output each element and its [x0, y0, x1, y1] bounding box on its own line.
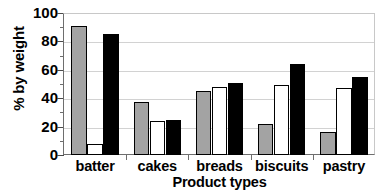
x-axis-tick-label: batter [64, 158, 126, 174]
bar [150, 121, 166, 155]
bar-group [134, 13, 182, 155]
bar [87, 144, 103, 155]
bar [290, 64, 306, 155]
x-axis-tick-label: pastry [313, 158, 375, 174]
y-axis-tick-label: 20 [18, 120, 58, 134]
bar-chart: % by weight 020406080100 battercakesbrea… [0, 0, 390, 193]
bars-layer [64, 13, 375, 155]
bar-group [196, 13, 244, 155]
bar [320, 132, 336, 155]
bar [196, 91, 212, 155]
bar [166, 120, 182, 156]
y-axis-tick-label: 80 [18, 34, 58, 48]
x-axis-tick-label: breads [188, 158, 250, 174]
bar [134, 102, 150, 155]
bar-group [320, 13, 368, 155]
y-axis-tick-labels: 020406080100 [18, 6, 58, 161]
bar [71, 26, 87, 155]
bar [228, 83, 244, 155]
x-axis-tick-label: cakes [126, 158, 188, 174]
y-axis-tick-label: 100 [18, 6, 58, 20]
x-axis-tick-label: biscuits [251, 158, 313, 174]
bar [336, 88, 352, 155]
y-axis-tick-label: 60 [18, 63, 58, 77]
y-axis-tick-label: 40 [18, 91, 58, 105]
bar [258, 124, 274, 155]
bar-group [258, 13, 306, 155]
y-axis-tick-label: 0 [18, 148, 58, 162]
x-axis-title: Product types [64, 174, 375, 190]
bar [103, 34, 119, 155]
bar [212, 87, 228, 155]
y-axis-major-tick [57, 155, 64, 156]
bar [274, 85, 290, 155]
bar-group [71, 13, 119, 155]
bar [352, 77, 368, 155]
